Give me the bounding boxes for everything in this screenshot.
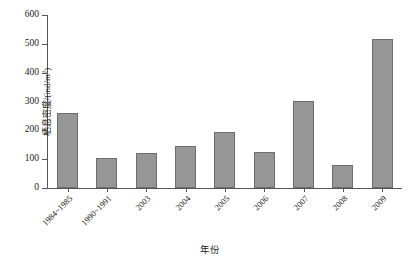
bar-slot: 2003 xyxy=(127,15,166,188)
x-tick-label-2008: 2008 xyxy=(331,194,349,212)
x-tick-label-2005: 2005 xyxy=(213,194,231,212)
x-tick-label-2004: 2004 xyxy=(174,194,192,212)
x-tick-mark xyxy=(146,188,147,192)
bar-slot: 2008 xyxy=(323,15,362,188)
x-tick-label-2003: 2003 xyxy=(134,194,152,212)
bar-2006[interactable] xyxy=(254,152,275,188)
x-tick-label-2007: 2007 xyxy=(292,194,310,212)
bar-slot: 1984~1985 xyxy=(48,15,87,188)
y-tick-label: 600 xyxy=(25,10,39,20)
bar-2003[interactable] xyxy=(136,153,157,188)
x-tick-mark xyxy=(107,188,108,192)
bar-series: 1984~19851990~19912003200420052006200720… xyxy=(48,15,402,188)
bar-slot: 2009 xyxy=(363,15,402,188)
bar-2009[interactable] xyxy=(372,39,393,188)
chart-figure: 栖息密度/(ind/m2) 0100200300400500600 1984~1… xyxy=(0,0,419,264)
bar-slot: 1990~1991 xyxy=(87,15,126,188)
bar-2004[interactable] xyxy=(175,146,196,188)
y-tick-label: 200 xyxy=(25,126,39,136)
bar-2005[interactable] xyxy=(214,132,235,188)
bar-2007[interactable] xyxy=(293,101,314,188)
x-tick-label-1984~1985: 1984~1985 xyxy=(40,194,73,227)
bar-slot: 2004 xyxy=(166,15,205,188)
x-tick-label-2009: 2009 xyxy=(370,194,388,212)
bar-slot: 2005 xyxy=(205,15,244,188)
x-axis-title: 年份 xyxy=(0,242,419,256)
y-tick-label: 100 xyxy=(25,154,39,164)
bar-1990~1991[interactable] xyxy=(96,158,117,188)
bar-1984~1985[interactable] xyxy=(57,113,78,188)
x-tick-mark xyxy=(304,188,305,192)
y-tick-label: 0 xyxy=(34,183,39,193)
y-tick-mark xyxy=(42,188,48,189)
x-tick-mark xyxy=(382,188,383,192)
x-tick-mark xyxy=(186,188,187,192)
plot-area: 栖息密度/(ind/m2) 0100200300400500600 1984~1… xyxy=(47,15,402,189)
x-tick-mark xyxy=(343,188,344,192)
x-tick-label-2006: 2006 xyxy=(252,194,270,212)
y-tick-label: 500 xyxy=(25,39,39,49)
x-tick-label-1990~1991: 1990~1991 xyxy=(80,194,113,227)
x-tick-mark xyxy=(225,188,226,192)
y-tick-label: 400 xyxy=(25,68,39,78)
y-tick-label: 300 xyxy=(25,97,39,107)
bar-2008[interactable] xyxy=(332,165,353,188)
bar-slot: 2007 xyxy=(284,15,323,188)
bar-slot: 2006 xyxy=(245,15,284,188)
x-tick-mark xyxy=(68,188,69,192)
x-tick-mark xyxy=(264,188,265,192)
